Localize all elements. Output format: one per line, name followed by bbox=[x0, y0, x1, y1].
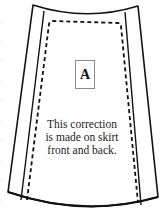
left-seam-line bbox=[21, 11, 44, 200]
right-seam-line bbox=[125, 12, 141, 205]
correction-note: This correction is made on skirt front a… bbox=[36, 118, 128, 157]
skirt-pattern-diagram bbox=[0, 0, 164, 216]
note-line-3: front and back. bbox=[36, 144, 128, 157]
piece-label-a: A bbox=[75, 60, 95, 89]
note-line-2: is made on skirt bbox=[36, 131, 128, 144]
margin-dots bbox=[1, 21, 2, 200]
note-line-1: This correction bbox=[36, 118, 128, 131]
hem-line bbox=[8, 192, 158, 206]
correction-dashed-line bbox=[27, 21, 138, 203]
